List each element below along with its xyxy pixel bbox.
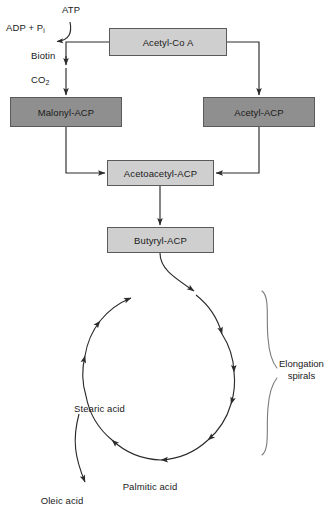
atp-to-adp-curve <box>57 22 71 42</box>
cycle-arc-3 <box>231 372 235 404</box>
cycle-arc-5 <box>161 440 208 460</box>
cycle-arc-6 <box>112 440 161 460</box>
fatty-acid-synthesis-diagram: Acetyl-Co A Malonyl-ACP Acetyl-ACP Aceto… <box>0 0 328 510</box>
node-acetoacetyl-acp-label: Acetoacetyl-ACP <box>124 168 197 179</box>
label-stearic-acid: Stearic acid <box>74 403 125 414</box>
cycle-arc-10 <box>100 298 131 321</box>
label-elongation-spirals-line1: Elongation <box>279 358 324 370</box>
label-stearic-acid-text: Stearic acid <box>74 403 125 414</box>
label-biotin-text: Biotin <box>31 50 55 61</box>
arrow-acetylacp-to-acetoacetyl <box>216 127 259 173</box>
acetylcoa-left-stem <box>66 42 109 60</box>
label-elongation-spirals-line2: spirals <box>279 370 324 382</box>
cycle-arc-8 <box>83 356 86 396</box>
node-acetyl-acp-label: Acetyl-ACP <box>234 107 284 118</box>
cycle-arc-1 <box>196 295 222 334</box>
arrow-acetylcoa-to-acetyl-acp <box>227 42 259 95</box>
arrow-butyryl-into-cycle <box>160 253 194 291</box>
node-butyryl-acp-label: Butyryl-ACP <box>134 235 187 246</box>
cycle-arc-2 <box>222 334 234 372</box>
label-atp-text: ATP <box>62 4 80 15</box>
label-oleic-acid-text: Oleic acid <box>41 495 84 506</box>
label-co2-subscript: 2 <box>45 79 49 86</box>
node-acetyl-coa-label: Acetyl-Co A <box>143 37 194 48</box>
cycle-arc-4 <box>208 404 231 440</box>
label-palmitic-acid: Palmitic acid <box>123 481 178 492</box>
elongation-spirals-brace <box>262 291 277 455</box>
label-palmitic-acid-text: Palmitic acid <box>123 481 178 492</box>
label-adp-pi-subscript: i <box>43 27 45 34</box>
node-malonyl-acp-label: Malonyl-ACP <box>38 107 95 118</box>
node-acetyl-acp[interactable]: Acetyl-ACP <box>203 97 315 127</box>
label-co2: CO2 <box>31 74 49 86</box>
label-co2-text: CO <box>31 74 45 85</box>
node-malonyl-acp[interactable]: Malonyl-ACP <box>10 97 122 127</box>
cycle-arc-9 <box>85 321 100 356</box>
arrow-stearic-to-oleic <box>75 414 85 482</box>
node-acetoacetyl-acp[interactable]: Acetoacetyl-ACP <box>107 160 214 186</box>
label-biotin: Biotin <box>31 50 55 61</box>
node-butyryl-acp[interactable]: Butyryl-ACP <box>107 227 214 253</box>
label-elongation-spirals: Elongation spirals <box>279 358 324 381</box>
label-atp: ATP <box>62 4 80 15</box>
label-adp-pi: ADP + Pi <box>6 22 45 34</box>
node-acetyl-coa[interactable]: Acetyl-Co A <box>109 28 227 56</box>
label-adp-pi-text: ADP + P <box>6 22 43 33</box>
arrow-malonyl-to-acetoacetyl <box>66 127 105 173</box>
label-oleic-acid: Oleic acid <box>41 495 84 506</box>
